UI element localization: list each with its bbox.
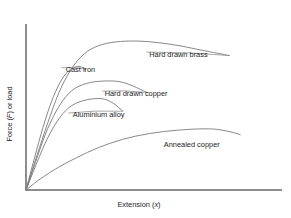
curve-hard-drawn-brass: [26, 41, 229, 190]
force-extension-chart: Hard drawn brassCast ironHard drawn copp…: [0, 0, 291, 218]
curve-label-hard-drawn-copper: Hard drawn copper: [105, 89, 168, 98]
y-axis-label: Force (F) or load: [5, 86, 14, 141]
curve-label-aluminium-alloy: Aluminium alloy: [73, 110, 125, 119]
curve-label-cast-iron: Cast iron: [66, 65, 96, 74]
chart-axis-titles: Extension (x) Force (F) or load: [5, 86, 161, 209]
x-axis-label: Extension (x): [117, 200, 160, 209]
chart-figure: Hard drawn brassCast ironHard drawn copp…: [0, 0, 291, 218]
curve-label-hard-drawn-brass: Hard drawn brass: [149, 50, 208, 59]
chart-curves: [26, 41, 240, 190]
curve-label-annealed-copper: Annealed copper: [164, 140, 220, 149]
chart-leader-lines: [62, 52, 229, 113]
curve-annealed-copper: [26, 129, 240, 190]
curve-cast-iron: [26, 66, 85, 190]
